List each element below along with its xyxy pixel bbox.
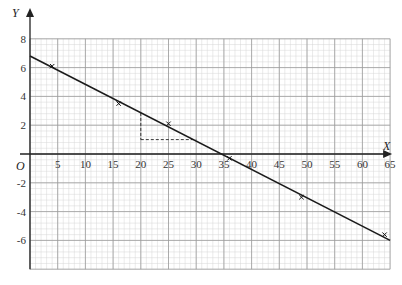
svg-text:-2: -2 bbox=[17, 177, 26, 189]
svg-text:10: 10 bbox=[80, 158, 92, 170]
svg-text:50: 50 bbox=[302, 158, 314, 170]
svg-text:8: 8 bbox=[21, 33, 27, 45]
origin-label: O bbox=[16, 159, 25, 173]
svg-text:60: 60 bbox=[357, 158, 369, 170]
svg-text:55: 55 bbox=[329, 158, 341, 170]
svg-text:45: 45 bbox=[274, 158, 286, 170]
svg-text:2: 2 bbox=[21, 119, 27, 131]
svg-text:5: 5 bbox=[55, 158, 61, 170]
y-axis-title: Y bbox=[12, 6, 20, 20]
axes bbox=[20, 8, 392, 269]
svg-text:4: 4 bbox=[21, 90, 27, 102]
svg-text:-4: -4 bbox=[17, 206, 27, 218]
svg-text:65: 65 bbox=[385, 158, 397, 170]
scatter-chart: 51015202530354045505560658642-2-4-6 Y X … bbox=[0, 0, 402, 285]
svg-text:20: 20 bbox=[135, 158, 147, 170]
svg-text:15: 15 bbox=[108, 158, 120, 170]
svg-text:25: 25 bbox=[163, 158, 175, 170]
svg-text:6: 6 bbox=[21, 62, 27, 74]
x-axis-title: X bbox=[382, 139, 391, 153]
svg-text:-6: -6 bbox=[17, 234, 27, 246]
svg-text:30: 30 bbox=[191, 158, 203, 170]
